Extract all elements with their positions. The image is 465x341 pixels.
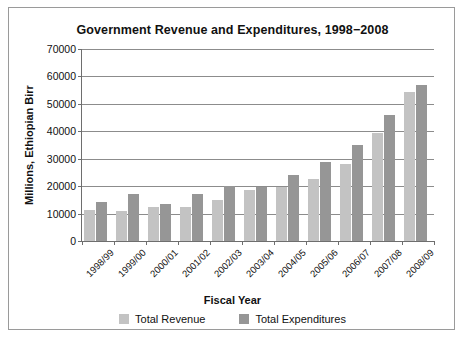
x-axis-tick-label: 2000/01 (147, 247, 179, 279)
x-axis-tick-label: 1999/00 (115, 247, 147, 279)
x-axis-tick-label: 2004/05 (275, 247, 307, 279)
legend-label-total-expenditures: Total Expenditures (255, 313, 346, 325)
bar-expenditures (96, 202, 107, 241)
x-axis-tick-mark (178, 241, 179, 245)
x-axis-tick-mark (306, 241, 307, 245)
legend-swatch-icon-total-expenditures (239, 314, 249, 324)
bar-revenue (372, 133, 383, 241)
bar-revenue (404, 92, 415, 241)
x-axis-tick-mark (402, 241, 403, 245)
bar-group (146, 49, 178, 241)
legend-item-total-revenue: Total Revenue (119, 313, 205, 325)
x-axis-tick-mark (114, 241, 115, 245)
bar-group (178, 49, 210, 241)
x-axis-tick-mark (242, 241, 243, 245)
y-axis-tick-label: 20000 (47, 180, 76, 192)
bar-group (274, 49, 306, 241)
legend-label-total-revenue: Total Revenue (135, 313, 205, 325)
x-axis-tick-label: 1998/99 (83, 247, 115, 279)
x-axis-tick-mark (338, 241, 339, 245)
x-axis-tick-label: 2006/07 (339, 247, 371, 279)
y-axis-tick-label: 10000 (47, 208, 76, 220)
x-axis-title: Fiscal Year (9, 294, 456, 306)
bar-expenditures (352, 145, 363, 241)
x-axis-tick-label: 2008/09 (403, 247, 435, 279)
x-axis-tick-mark (210, 241, 211, 245)
legend-swatch-icon-total-revenue (119, 314, 129, 324)
bar-expenditures (288, 175, 299, 241)
bar-expenditures (128, 194, 139, 241)
y-axis-tick-label: 70000 (47, 43, 76, 55)
x-axis-tick-mark (82, 241, 83, 245)
bar-revenue (308, 179, 319, 241)
bar-group (370, 49, 402, 241)
x-axis-tick-label: 2005/06 (307, 247, 339, 279)
bar-expenditures (320, 162, 331, 241)
chart-frame: Government Revenue and Expenditures, 199… (8, 7, 455, 330)
x-axis-tick-label: 2007/08 (371, 247, 403, 279)
bar-revenue (212, 200, 223, 241)
bar-expenditures (224, 186, 235, 241)
x-axis-tick-mark (434, 241, 435, 245)
bar-group (306, 49, 338, 241)
y-axis-tick-label: 50000 (47, 98, 76, 110)
bar-group (114, 49, 146, 241)
bar-expenditures (160, 204, 171, 241)
bar-revenue (340, 164, 351, 241)
bar-expenditures (256, 187, 267, 241)
x-axis-tick-label: 2003/04 (243, 247, 275, 279)
bar-expenditures (192, 194, 203, 241)
plot-area: 7000060000500004000030000200001000001998… (81, 49, 434, 242)
bar-revenue (148, 207, 159, 241)
bar-group (242, 49, 274, 241)
legend-item-total-expenditures: Total Expenditures (239, 313, 346, 325)
bar-expenditures (416, 85, 427, 241)
chart-title: Government Revenue and Expenditures, 199… (9, 23, 456, 37)
bar-revenue (84, 210, 95, 241)
y-axis-tick-label: 30000 (47, 153, 76, 165)
x-axis-tick-mark (274, 241, 275, 245)
bar-group (338, 49, 370, 241)
bar-group (402, 49, 434, 241)
bar-revenue (116, 211, 127, 241)
x-axis-tick-mark (146, 241, 147, 245)
y-axis-tick-label: 0 (70, 235, 76, 247)
bar-group (82, 49, 114, 241)
x-axis-tick-mark (370, 241, 371, 245)
y-axis-tick-label: 60000 (47, 70, 76, 82)
y-axis-tick-label: 40000 (47, 125, 76, 137)
x-axis-tick-label: 2001/02 (179, 247, 211, 279)
chart-legend: Total Revenue Total Expenditures (9, 313, 456, 325)
bar-group (210, 49, 242, 241)
x-axis-tick-label: 2002/03 (211, 247, 243, 279)
bar-revenue (244, 190, 255, 241)
bar-revenue (276, 187, 287, 241)
bar-expenditures (384, 115, 395, 241)
y-axis-title-text: Millions, Ethiopian Birr (23, 85, 35, 205)
bar-revenue (180, 207, 191, 241)
y-axis-title: Millions, Ethiopian Birr (21, 49, 37, 241)
